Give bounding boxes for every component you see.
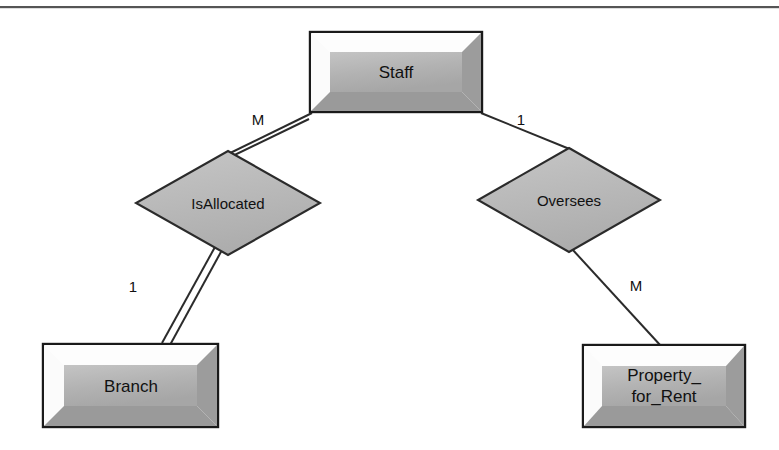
- entity-staff-label: Staff: [379, 63, 414, 82]
- entity-branch-label: Branch: [104, 377, 158, 396]
- relationship-isallocated[interactable]: IsAllocated: [136, 151, 320, 255]
- connector-staff-oversees: [481, 113, 572, 150]
- relationship-oversees[interactable]: Oversees: [478, 148, 660, 252]
- entity-staff[interactable]: Staff: [310, 32, 482, 112]
- entity-property-for-rent-label-line2: for_Rent: [631, 387, 696, 406]
- cardinality-oversees-property: M: [630, 277, 643, 294]
- entity-property-for-rent-label-line1: Property_: [627, 366, 701, 385]
- entity-branch[interactable]: Branch: [43, 344, 218, 427]
- cardinality-staff-isallocated: M: [252, 111, 265, 128]
- entity-property-for-rent[interactable]: Property_ for_Rent: [583, 345, 745, 427]
- relationship-isallocated-label: IsAllocated: [191, 195, 264, 212]
- er-diagram-canvas: Staff Branch Property_ for_Rent IsAll: [0, 0, 779, 450]
- relationship-oversees-label: Oversees: [537, 192, 601, 209]
- connector-oversees-property: [572, 249, 661, 346]
- top-rule: [0, 6, 779, 8]
- connector-isallocated-branch: [162, 247, 222, 345]
- cardinality-staff-oversees: 1: [517, 111, 525, 128]
- er-diagram-svg: Staff Branch Property_ for_Rent IsAll: [0, 0, 779, 450]
- cardinality-isallocated-branch: 1: [129, 278, 137, 295]
